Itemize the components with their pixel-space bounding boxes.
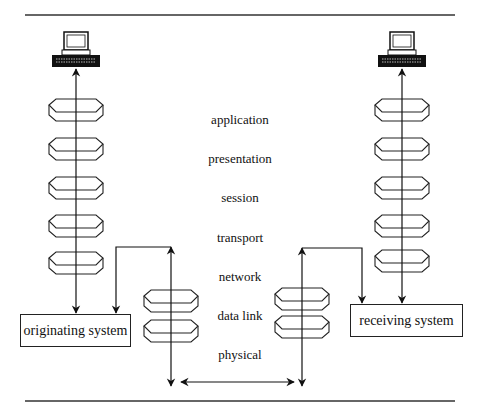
layer-label-application: application — [211, 112, 269, 128]
originating-system-label: originating system — [24, 323, 128, 339]
layer-label-transport: transport — [217, 230, 263, 246]
layer-label-data-link: data link — [217, 308, 262, 324]
layer-label-network: network — [219, 269, 262, 285]
right-computer-icon — [378, 32, 426, 67]
left-computer-icon — [52, 32, 100, 67]
originating-system-box: originating system — [20, 314, 131, 347]
receiving-system-label: receiving system — [359, 313, 453, 329]
layer-label-presentation: presentation — [208, 151, 272, 167]
receiving-system-box: receiving system — [350, 304, 463, 337]
layer-label-physical: physical — [218, 347, 261, 363]
layer-label-session: session — [221, 190, 259, 206]
